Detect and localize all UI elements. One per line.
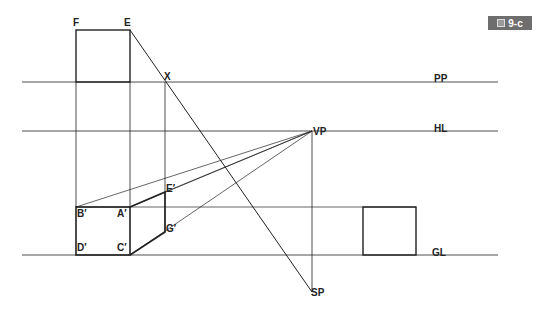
vanishing-line-b	[76, 131, 312, 207]
point-label-c-prime: C′	[117, 243, 127, 253]
perspective-diagram	[0, 0, 546, 319]
line-label-gl: GL	[432, 248, 446, 258]
point-label-d-prime: D′	[77, 243, 87, 253]
elevation-square	[363, 207, 416, 255]
point-label-vp: VP	[313, 127, 326, 137]
cube-side-face	[130, 192, 165, 255]
plan-square	[76, 30, 130, 82]
point-label-sp: SP	[311, 288, 324, 298]
point-label-b-prime: B′	[77, 209, 87, 219]
vanishing-line-e	[165, 131, 312, 192]
point-label-e: E	[124, 18, 131, 28]
point-label-g-prime: G′	[166, 224, 176, 234]
point-label-a-prime: A′	[117, 209, 127, 219]
point-label-e-prime: E′	[166, 184, 175, 194]
visual-ray-e-sp	[130, 30, 312, 292]
line-label-pp: PP	[434, 74, 447, 84]
point-label-x: X	[164, 72, 171, 82]
point-label-f: F	[73, 18, 79, 28]
line-label-hl: HL	[434, 124, 447, 134]
